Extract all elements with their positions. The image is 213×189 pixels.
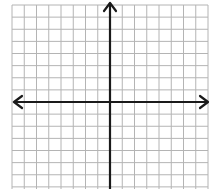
coordinate-plane [0,0,213,189]
y-axis [104,3,116,189]
